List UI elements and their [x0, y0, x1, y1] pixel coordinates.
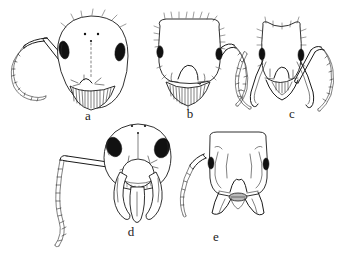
- plate-canvas: a: [0, 0, 341, 255]
- eye-right-e: [263, 158, 269, 170]
- figure-plate: a: [0, 0, 341, 255]
- panel-label-c: c: [289, 106, 295, 121]
- panel-label-b: b: [187, 106, 194, 121]
- head-capsule-c: [262, 22, 302, 83]
- eye-left-c: [259, 48, 265, 60]
- eye-left-e: [208, 157, 214, 169]
- panel-label-a: a: [85, 108, 91, 123]
- eye-right-b: [216, 48, 222, 60]
- panel-label-d: d: [128, 224, 135, 239]
- eye-right-c: [298, 49, 304, 61]
- panel-label-e: e: [213, 229, 219, 244]
- eye-left-b: [157, 46, 163, 58]
- head-capsule-e: [210, 132, 268, 197]
- head-capsule-b: [159, 19, 221, 84]
